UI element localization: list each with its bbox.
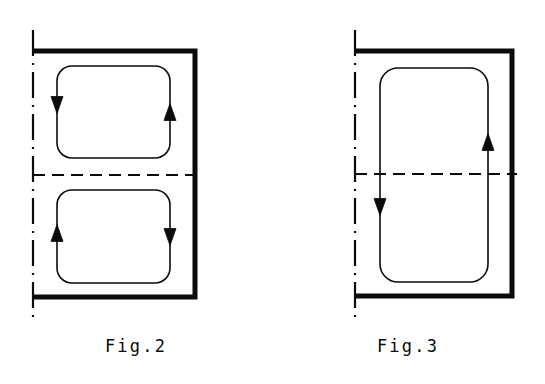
arrow-upper-right-icon — [164, 104, 176, 121]
figure-caption-fig-2: Fig.2 — [0, 336, 272, 356]
arrow-lower-right-icon — [164, 229, 176, 246]
figure-drawing-fig-2 — [0, 0, 272, 330]
figure-panel-fig-3: Fig.3 — [272, 0, 544, 384]
figure-panel-fig-2: Fig.2 — [0, 0, 272, 384]
arrow-lower-left-icon — [51, 225, 63, 242]
figure-drawing-fig-3 — [272, 0, 544, 330]
figure-sheet: Fig.2 Fig.3 — [0, 0, 545, 384]
upper-flux-loop — [57, 66, 170, 158]
arrow-left-icon — [374, 199, 386, 216]
figure-caption-fig-3: Fig.3 — [272, 336, 544, 356]
lower-flux-loop — [57, 190, 170, 283]
arrow-right-icon — [482, 134, 494, 151]
arrow-upper-left-icon — [51, 97, 63, 114]
